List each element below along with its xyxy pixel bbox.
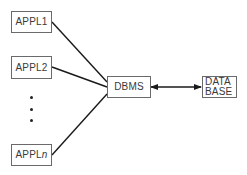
appln-label: APPLn [15, 150, 47, 160]
appln-box: APPLn [11, 144, 52, 166]
connector-appl1-dbms [52, 22, 107, 82]
ellipsis-dot [30, 119, 33, 122]
connector-appln-dbms [52, 94, 107, 155]
connector-appl2-dbms [52, 67, 107, 87]
ellipsis-dot [30, 108, 33, 111]
dbms-box: DBMS [107, 76, 151, 98]
appl2-label: APPL2 [15, 63, 47, 73]
ellipsis-dot [30, 96, 33, 99]
diagram-canvas: APPL1 APPL2 APPLn DBMS DATA BASE [0, 0, 247, 175]
dbms-label: DBMS [114, 82, 144, 92]
appl1-box: APPL1 [11, 11, 52, 33]
appl2-box: APPL2 [11, 56, 52, 79]
appl1-label: APPL1 [15, 17, 47, 27]
database-label-line2: BASE [205, 87, 232, 97]
database-box: DATA BASE [202, 76, 237, 98]
